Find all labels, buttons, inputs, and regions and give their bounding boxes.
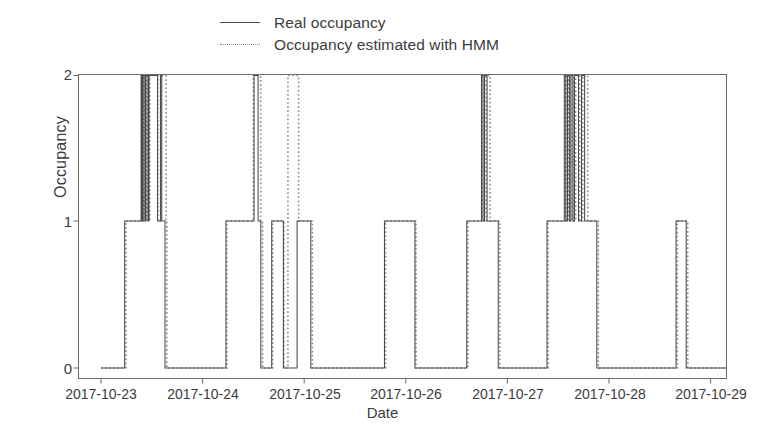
- x-axis-ticks: [101, 379, 711, 384]
- plot-frame-border: [79, 75, 727, 379]
- occupancy-chart-figure: Real occupancy Occupancy estimated with …: [0, 0, 765, 440]
- y-axis-ticks: [74, 76, 79, 369]
- series-line-real-occupancy: [101, 76, 727, 369]
- plot-area: [0, 0, 765, 440]
- series-line-occupancy-estimated-hmm: [101, 76, 727, 369]
